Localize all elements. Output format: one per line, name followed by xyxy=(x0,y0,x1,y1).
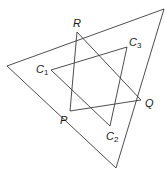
label-p: P xyxy=(60,114,68,126)
label-c3: C3 xyxy=(129,36,142,50)
label-c2: C2 xyxy=(106,130,119,144)
outer-triangle xyxy=(7,9,164,168)
label-c1: C1 xyxy=(36,63,49,77)
label-q: Q xyxy=(145,97,154,109)
label-r: R xyxy=(73,17,81,29)
triangle-diagram: R Q P C1 C2 C3 xyxy=(0,0,165,175)
diagram-canvas: R Q P C1 C2 C3 xyxy=(0,0,165,175)
